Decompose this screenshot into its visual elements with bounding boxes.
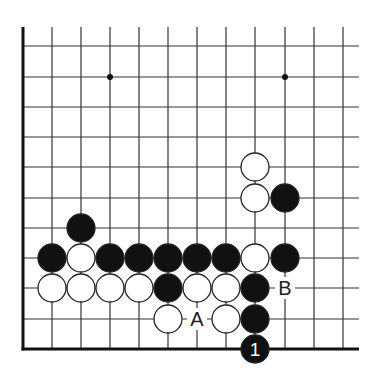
star-point-icon	[107, 74, 113, 80]
marker-b: B	[275, 277, 295, 299]
white-stone	[241, 244, 269, 272]
white-stone	[241, 184, 269, 212]
black-stone	[271, 184, 299, 212]
black-stone	[183, 244, 211, 272]
white-stone	[96, 274, 124, 302]
black-stone	[125, 244, 153, 272]
white-stone	[212, 305, 240, 333]
marker-label: A	[190, 308, 204, 330]
marker-a: A	[187, 308, 207, 330]
black-stone	[212, 244, 240, 272]
black-stone	[96, 244, 124, 272]
white-stone	[241, 153, 269, 181]
black-stone	[154, 244, 182, 272]
black-stone: 1	[241, 335, 269, 363]
go-board: 1 AB	[0, 0, 379, 381]
white-stone	[38, 274, 66, 302]
white-stone	[154, 305, 182, 333]
white-stone	[183, 274, 211, 302]
black-stone	[67, 214, 95, 242]
white-stone	[67, 274, 95, 302]
black-stone	[271, 244, 299, 272]
move-number: 1	[250, 339, 261, 360]
white-stone	[212, 274, 240, 302]
black-stone	[38, 244, 66, 272]
white-stone	[67, 244, 95, 272]
black-stone	[241, 305, 269, 333]
marker-label: B	[278, 277, 291, 299]
white-stone	[125, 274, 153, 302]
star-point-icon	[282, 74, 288, 80]
black-stone	[241, 274, 269, 302]
grid-lines	[22, 27, 360, 351]
black-stone	[154, 274, 182, 302]
